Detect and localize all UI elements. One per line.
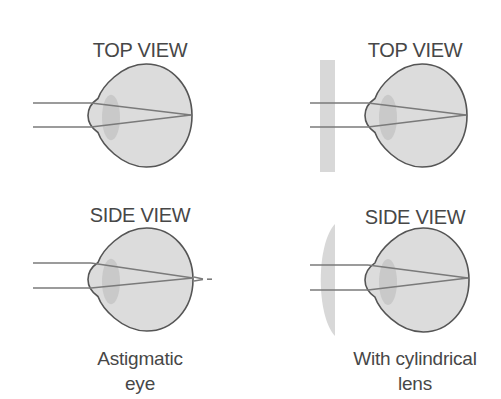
- extended-ray-lower: [194, 280, 203, 282]
- caption-line-1: With cylindrical: [353, 346, 477, 371]
- caption-line-2: eye: [97, 371, 183, 396]
- crystalline-lens: [379, 95, 397, 140]
- crystalline-lens: [102, 95, 120, 140]
- extended-ray-upper: [194, 277, 203, 279]
- caption-astigmatic-eye: Astigmatic eye: [97, 346, 183, 396]
- view-label-side-right: SIDE VIEW: [365, 207, 466, 227]
- view-label-top-right: TOP VIEW: [368, 40, 463, 60]
- caption-line-1: Astigmatic: [97, 346, 183, 371]
- astigmatism-diagram: TOP VIEW TOP VIEW SIDE VIEW SIDE VIEW As…: [0, 0, 501, 399]
- caption-with-cylindrical-lens: With cylindrical lens: [353, 346, 477, 396]
- view-label-top-left: TOP VIEW: [93, 40, 188, 60]
- cylindrical-lens-side-view: [321, 224, 335, 336]
- view-label-side-left: SIDE VIEW: [90, 205, 191, 225]
- cylindrical-lens-top-view: [320, 60, 335, 172]
- caption-line-2: lens: [353, 371, 477, 396]
